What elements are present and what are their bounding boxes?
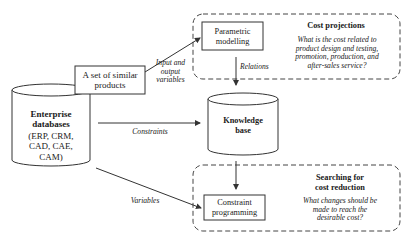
- variables-label: Variables: [125, 197, 165, 206]
- input-output-line3: variables: [148, 76, 193, 85]
- input-output-variables-label: Input and output variables: [148, 59, 193, 85]
- cost-reduction-title-line1: Searching for: [290, 173, 390, 183]
- cost-reduction-question: What changes should be made to reach the…: [290, 197, 390, 223]
- cost-projections-title: Cost projections: [280, 21, 392, 31]
- relations-label: Relations: [240, 63, 280, 72]
- constraint-line1: Constraint: [204, 198, 265, 208]
- cost-projections-q-line4: after-sales service?: [278, 62, 396, 71]
- cost-reduction-title-line2: cost reduction: [290, 183, 390, 193]
- constraint-programming-label: Constraint programming: [204, 198, 265, 217]
- knowledge-base-line2: base: [208, 126, 278, 136]
- knowledge-base-line1: Knowledge: [208, 116, 278, 126]
- enterprise-title-line1: Enterprise: [12, 109, 90, 119]
- enterprise-sub-line3: CAM): [12, 152, 90, 162]
- parametric-line1: Parametric: [202, 27, 263, 37]
- enterprise-databases-list: (ERP, CRM, CAD, CAE, CAM): [12, 131, 90, 162]
- parametric-modelling-label: Parametric modelling: [202, 27, 263, 46]
- enterprise-databases-title: Enterprise databases: [12, 109, 90, 130]
- enterprise-sub-line1: (ERP, CRM,: [12, 131, 90, 141]
- enterprise-sub-line2: CAD, CAE,: [12, 141, 90, 151]
- cost-reduction-q-line3: desirable cost?: [290, 214, 390, 223]
- similar-products-line1: A set of similar: [75, 70, 145, 80]
- enterprise-title-line2: databases: [12, 119, 90, 129]
- knowledge-base-label: Knowledge base: [208, 116, 278, 135]
- similar-products-line2: products: [75, 80, 145, 90]
- parametric-line2: modelling: [202, 37, 263, 47]
- constraints-label: Constraints: [125, 128, 175, 137]
- cost-projections-question: What is the cost related to product desi…: [278, 36, 396, 71]
- similar-products-label: A set of similar products: [75, 70, 145, 91]
- cost-reduction-title: Searching for cost reduction: [290, 173, 390, 192]
- constraint-line2: programming: [204, 208, 265, 218]
